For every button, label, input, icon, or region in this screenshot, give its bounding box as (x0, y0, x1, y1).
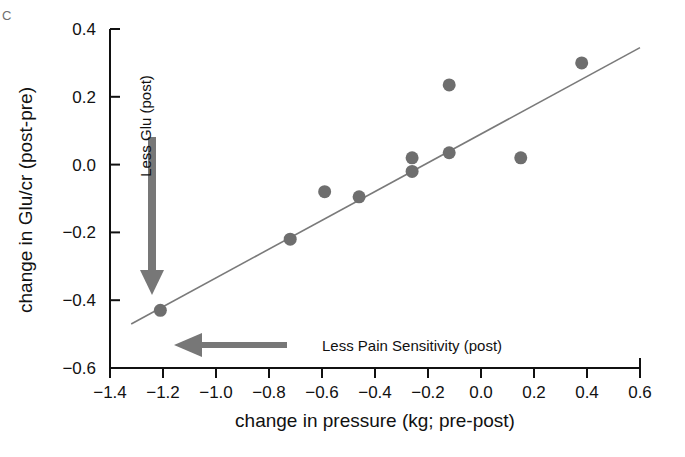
data-point (575, 56, 588, 69)
x-tick-label: −1.0 (199, 383, 233, 402)
y-tick-label: 0.4 (72, 20, 96, 39)
panel-letter: C (2, 8, 11, 23)
data-point (318, 185, 331, 198)
data-point (406, 165, 419, 178)
data-point (353, 190, 366, 203)
x-tick-label: −0.4 (358, 383, 392, 402)
data-point (514, 151, 527, 164)
less-glu-arrow-label: Less Glu (post) (137, 75, 154, 177)
x-tick-label: −0.2 (411, 383, 445, 402)
data-point (443, 78, 456, 91)
less-glu-arrow-head (140, 270, 164, 295)
less-pain-sensitivity-arrow-label: Less Pain Sensitivity (post) (322, 337, 502, 354)
x-axis-ticks (110, 368, 640, 378)
x-tick-label: 0.4 (575, 383, 599, 402)
x-tick-label: 0.6 (628, 383, 652, 402)
y-tick-label: −0.4 (62, 291, 96, 310)
y-tick-label: −0.6 (62, 359, 96, 378)
figure-panel: C −1.4−1.2−1.0−0.8−0.6−0.4−0.20.00.20.40… (0, 0, 685, 457)
x-tick-label: −1.4 (93, 383, 127, 402)
x-tick-label: −1.2 (146, 383, 180, 402)
x-tick-label: 0.0 (469, 383, 493, 402)
y-tick-label: 0.0 (72, 156, 96, 175)
data-point (154, 304, 167, 317)
y-tick-label: −0.2 (62, 223, 96, 242)
data-point (443, 146, 456, 159)
y-axis-ticks (110, 29, 120, 368)
x-tick-label: −0.6 (305, 383, 339, 402)
y-tick-label: 0.2 (72, 88, 96, 107)
regression-line (131, 48, 640, 324)
y-axis-title: change in Glu/cr (post-pre) (15, 87, 36, 313)
less-pain-sensitivity-arrow (174, 333, 287, 357)
x-axis-tick-labels: −1.4−1.2−1.0−0.8−0.6−0.4−0.20.00.20.40.6 (93, 383, 652, 402)
less-pain-arrow-head (174, 333, 202, 357)
axis-lines (110, 29, 640, 368)
scatter-plot: −1.4−1.2−1.0−0.8−0.6−0.4−0.20.00.20.40.6… (0, 0, 685, 457)
x-tick-label: −0.8 (252, 383, 286, 402)
y-axis-tick-labels: −0.6−0.4−0.20.00.20.4 (62, 20, 96, 378)
data-point (406, 151, 419, 164)
x-tick-label: 0.2 (522, 383, 546, 402)
x-axis-title: change in pressure (kg; pre-post) (235, 410, 515, 431)
data-point-group (154, 56, 588, 316)
data-point (284, 233, 297, 246)
